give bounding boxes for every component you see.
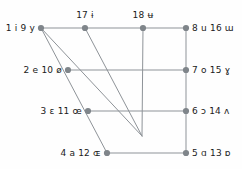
vowel-node-n3[interactable] [85, 108, 91, 114]
vowel-label-n18: 18 ʉ [133, 11, 154, 20]
edge-n18-converge [142, 28, 143, 136]
vowel-label-n17: 17 ɨ [76, 11, 94, 20]
vowel-label-n6: 6 ɔ 14 ʌ [192, 107, 230, 116]
vowel-label-n5: 5 ɑ 13 ɒ [192, 149, 231, 158]
vowel-label-n7: 7 o 15 ɣ [192, 66, 230, 75]
vowel-node-n17[interactable] [82, 25, 88, 31]
vowel-node-n1[interactable] [38, 25, 44, 31]
edge-n1-n4 [41, 28, 107, 153]
vowel-node-n6[interactable] [183, 108, 189, 114]
edge-layer [41, 28, 186, 153]
vowel-label-n3: 3 ɛ 11 œ [41, 107, 82, 116]
vowel-node-n8[interactable] [183, 25, 189, 31]
vowel-node-n2[interactable] [65, 67, 71, 73]
node-layer [38, 25, 189, 156]
vowel-node-n18[interactable] [140, 25, 146, 31]
vowel-label-n2: 2 e 10 ø [24, 66, 62, 75]
edge-n1-converge [41, 28, 142, 136]
vowel-label-n8: 8 u 16 ɯ [192, 24, 234, 33]
vowel-label-n1: 1 i 9 y [6, 24, 35, 33]
vowel-node-n7[interactable] [183, 67, 189, 73]
vowel-label-n4: 4 a 12 ɶ [60, 149, 101, 158]
edge-n17-converge [85, 28, 142, 136]
vowel-node-n5[interactable] [183, 150, 189, 156]
vowel-node-n4[interactable] [104, 150, 110, 156]
